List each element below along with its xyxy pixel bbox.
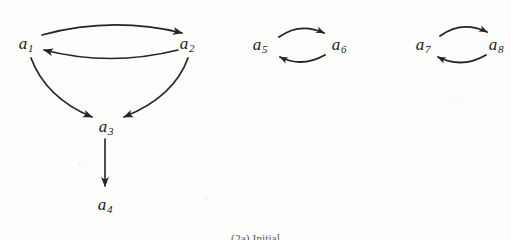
figure-caption: (2a) Initial <box>0 233 511 240</box>
node-a3-base: a <box>99 117 108 136</box>
node-a4: a4 <box>98 196 112 213</box>
node-a3-subscript: 3 <box>108 125 114 137</box>
scan-speck <box>78 164 81 166</box>
edge-a1-to-a3 <box>31 58 92 117</box>
node-a8-base: a <box>489 35 498 54</box>
node-a5-base: a <box>253 35 262 54</box>
node-a6-subscript: 6 <box>341 43 347 55</box>
edge-a1-to-a2 <box>42 25 182 35</box>
node-a6: a6 <box>332 36 346 53</box>
scan-speck <box>206 198 208 200</box>
node-a8-subscript: 8 <box>498 43 504 55</box>
node-a5-subscript: 5 <box>262 43 268 55</box>
node-a7-subscript: 7 <box>425 43 431 55</box>
scan-speck <box>455 96 457 98</box>
node-a2-subscript: 2 <box>189 42 195 54</box>
node-a4-subscript: 4 <box>107 203 113 215</box>
node-a1-base: a <box>19 34 28 53</box>
node-a5: a5 <box>253 36 267 53</box>
node-a1-subscript: 1 <box>28 42 34 54</box>
edge-a8-to-a7 <box>438 55 486 63</box>
edge-a2-to-a3 <box>124 58 188 117</box>
edge-a6-to-a5 <box>280 55 325 62</box>
edge-a5-to-a6 <box>279 28 324 37</box>
node-a2-base: a <box>180 34 189 53</box>
node-a7: a7 <box>416 36 430 53</box>
node-a6-base: a <box>332 35 341 54</box>
node-a8: a8 <box>489 36 503 53</box>
node-a7-base: a <box>416 35 425 54</box>
edge-a7-to-a8 <box>440 27 487 36</box>
node-a3: a3 <box>99 118 113 135</box>
node-a4-base: a <box>98 195 107 214</box>
edge-a2-to-a1 <box>44 50 178 59</box>
node-a1: a1 <box>19 35 33 52</box>
node-a2: a2 <box>180 35 194 52</box>
figure-canvas: a1 a2 a3 a4 a5 a6 a7 a8 (2a) Initial <box>0 0 511 240</box>
